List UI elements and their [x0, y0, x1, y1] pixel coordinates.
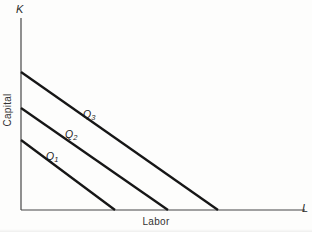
isoquant-label-q1: Q1 — [46, 151, 58, 164]
isoquant-line-q1 — [21, 140, 115, 210]
y-axis-title-capital: Capital — [3, 93, 13, 126]
isoquant-label-q3-base: Q — [83, 108, 91, 120]
y-axis-end-label-K: K — [16, 4, 23, 15]
x-axis-end-label-L: L — [302, 203, 308, 214]
plot-area — [0, 0, 312, 232]
isoquant-label-q1-base: Q — [46, 150, 54, 162]
isoquant-label-q2: Q2 — [65, 129, 77, 142]
isoquant-label-q2-sub: 2 — [73, 133, 77, 142]
isoquant-label-q2-base: Q — [65, 128, 73, 140]
isoquant-label-q3-sub: 3 — [91, 113, 95, 122]
x-axis-title-labor: Labor — [142, 217, 169, 227]
isoquant-line-q3 — [21, 72, 218, 210]
isoquant-label-q1-sub: 1 — [54, 155, 58, 164]
isoquant-figure: K L Capital Labor Q1 Q2 Q3 — [0, 0, 312, 232]
isoquant-label-q3: Q3 — [83, 109, 95, 122]
